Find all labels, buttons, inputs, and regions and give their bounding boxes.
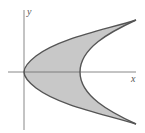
region-diagram: y x — [0, 0, 145, 133]
x-axis-label: x — [130, 73, 136, 84]
y-axis-label: y — [26, 6, 32, 17]
